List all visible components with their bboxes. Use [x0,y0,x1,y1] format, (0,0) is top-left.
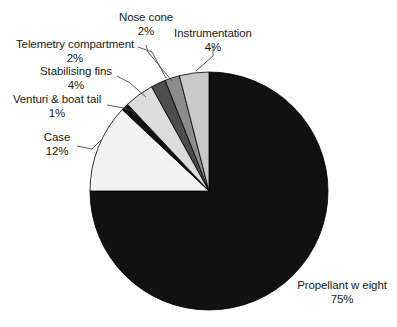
pie-label-telemetry-compartment-percent: 2% [13,52,137,66]
pie-label-instrumentation-name: Instrumentation [174,27,252,39]
pie-label-telemetry-compartment: Telemetry compartment 2% [13,38,137,65]
pie-label-propellant-weight-percent: 75% [290,293,394,307]
pie-label-venturi-boat-tail-percent: 1% [9,107,105,121]
pie-label-venturi-boat-tail-name: Venturi & boat tail [13,93,101,105]
pie-label-propellant-weight-name: Propellant w eight [297,279,387,291]
pie-label-stabilising-fins-name: Stabilising fins [40,65,112,77]
pie-label-stabilising-fins-percent: 4% [36,79,116,93]
pie-chart-figure: Nose cone 2% Instrumentation 4% Telemetr… [0,0,397,327]
pie-label-instrumentation: Instrumentation 4% [166,27,260,54]
pie-label-case-percent: 12% [38,145,76,159]
pie-label-case: Case 12% [38,131,76,158]
pie-label-venturi-boat-tail: Venturi & boat tail 1% [9,93,105,120]
pie-label-propellant-weight: Propellant w eight 75% [290,279,394,306]
leader-line-case [77,140,101,149]
pie-label-instrumentation-percent: 4% [166,41,260,55]
pie-label-nose-cone-name: Nose cone [119,11,173,23]
pie-slices [90,72,328,310]
pie-label-stabilising-fins: Stabilising fins 4% [36,65,116,92]
pie-label-telemetry-compartment-name: Telemetry compartment [16,38,134,50]
pie-label-case-name: Case [44,131,70,143]
leader-line-telemetry [138,47,166,78]
